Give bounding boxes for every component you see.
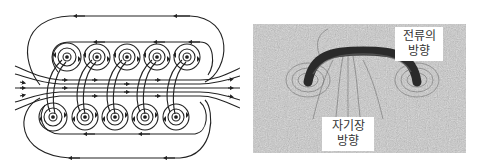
field-label-line1: 자기장 [327,119,369,134]
field-lines-svg [0,0,240,168]
field-direction-label: 자기장 방향 [322,117,374,151]
current-label-line2: 방향 [400,44,438,59]
solenoid-field-diagram [0,0,240,168]
current-label-line1: 전류의 [400,29,438,44]
iron-filings-photo: 전류의 방향 자기장 방향 [253,24,466,153]
field-label-line2: 방향 [327,134,369,149]
current-direction-label: 전류의 방향 [395,27,443,61]
top-conductor-row [53,43,200,71]
